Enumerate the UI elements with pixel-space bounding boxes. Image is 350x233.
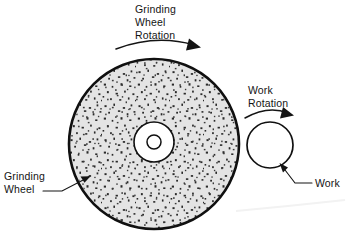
- work-label-line1: Work: [315, 177, 341, 189]
- wheel-rotation-label: Grinding Wheel Rotation: [135, 3, 176, 41]
- grinding-wheel-label: Grinding Wheel: [4, 170, 45, 195]
- wheel-rotation-label-line1: Grinding: [135, 3, 176, 15]
- grinding-wheel-label-line2: Wheel: [4, 183, 35, 195]
- work-label: Work: [315, 177, 341, 189]
- work-rotation-label-line1: Work: [248, 84, 274, 96]
- workpiece: [247, 122, 293, 168]
- work-rotation-label-line2: Rotation: [248, 97, 288, 109]
- diagram-canvas: Grinding Wheel Rotation Work Rotation Gr…: [0, 0, 350, 233]
- work-rotation-label: Work Rotation: [248, 84, 288, 109]
- scan-artifact: [236, 200, 345, 211]
- work-leader: [280, 163, 313, 183]
- wheel-bore: [147, 135, 161, 149]
- wheel-rotation-label-line2: Wheel: [135, 16, 166, 28]
- grinding-wheel-label-line1: Grinding: [4, 170, 45, 182]
- grinding-wheel: [66, 56, 244, 233]
- grinding-diagram: Grinding Wheel Rotation Work Rotation Gr…: [0, 0, 350, 233]
- wheel-rotation-label-line3: Rotation: [135, 29, 175, 41]
- wheel-rotation-arrowhead: [186, 39, 201, 51]
